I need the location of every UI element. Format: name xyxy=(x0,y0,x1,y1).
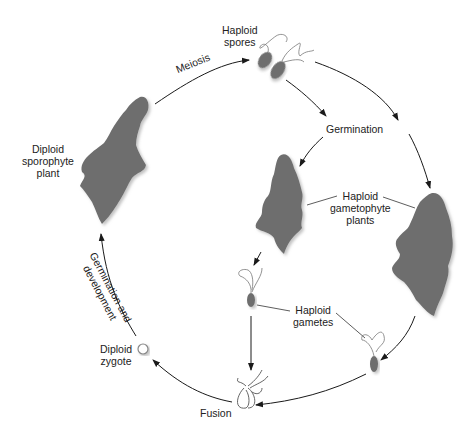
fusion-icon xyxy=(237,370,268,408)
germination-label: Germination xyxy=(326,123,383,135)
right-gametophyte-to-gamete-arrow xyxy=(381,316,415,360)
spores-to-germination-arrow xyxy=(286,80,326,116)
left-gametophyte-plant-icon xyxy=(256,154,303,254)
meiosis-arrow xyxy=(155,60,249,104)
right-gamete-to-fusion-arrow xyxy=(256,374,366,405)
zygote-icon xyxy=(138,344,148,354)
diploid-sporophyte-label: Diploid sporophyte plant xyxy=(22,143,74,179)
right-gametophyte-plant-icon xyxy=(392,193,453,316)
haploid-spores-label: Haploid spores xyxy=(222,24,258,48)
fusion-label: Fusion xyxy=(200,407,232,419)
haploid-gametes-label: Haploid gametes xyxy=(293,304,333,328)
outer-arc-to-right-gametophyte-arrow xyxy=(409,134,430,188)
left-gametophyte-to-gamete-arrow xyxy=(254,252,261,265)
gametes-pointer-right xyxy=(336,313,365,338)
haploid-spores-icon xyxy=(255,34,314,81)
germination-to-left-gametophyte-arrow xyxy=(300,137,323,166)
life-cycle-diagram xyxy=(0,0,466,436)
spores-to-right-gametophyte-arrow xyxy=(315,62,398,120)
diploid-zygote-label: Diploid zygote xyxy=(100,343,132,367)
fusion-to-zygote-arrow xyxy=(153,360,232,402)
gametes-pointer-left xyxy=(257,305,290,311)
right-gamete-icon xyxy=(362,332,385,372)
sporophyte-plant-icon xyxy=(80,97,149,224)
haploid-gametophyte-label: Haploid gametophyte plants xyxy=(330,190,391,226)
left-gamete-icon xyxy=(239,268,262,307)
